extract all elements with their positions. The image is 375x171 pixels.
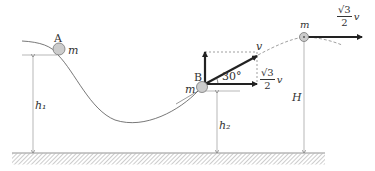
frac-denominator: 2 <box>341 17 347 28</box>
frac-symbol: v <box>277 74 283 85</box>
frac-numerator: √3 <box>260 68 275 80</box>
frac-numerator: √3 <box>337 5 352 17</box>
ground <box>12 153 325 165</box>
H-label: H <box>292 92 302 103</box>
point-a-label: A <box>54 33 62 44</box>
frac-symbol: v <box>354 11 360 22</box>
trajectory-descending <box>304 37 342 45</box>
top-velocity-label: √3 2 v <box>337 5 359 28</box>
frac-denominator: 2 <box>264 80 270 91</box>
angle-label: 30° <box>222 71 242 82</box>
h2-label: h₂ <box>219 120 231 131</box>
track-curve <box>22 41 198 123</box>
velocity-v-label: v <box>256 41 262 52</box>
h1-label: h₁ <box>35 100 47 111</box>
mass-b-label: m <box>185 84 195 95</box>
ball-top-center <box>303 36 305 38</box>
mass-top-label: m <box>300 20 309 30</box>
mass-a-label: m <box>68 45 78 56</box>
trajectory-ascending <box>258 37 304 55</box>
point-b-label: B <box>194 72 202 83</box>
horizontal-component-label: √3 2 v <box>260 68 282 91</box>
